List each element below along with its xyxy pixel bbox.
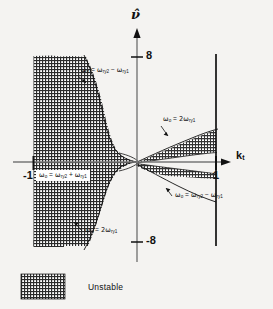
curve-label-lower-left-rhs1: 2ω [101, 226, 111, 234]
curve-label-lower-right: ωo = ωry2 − ωry1 [175, 192, 223, 200]
curve-label-upper-right-rhs1: 2ω [179, 115, 189, 123]
curve-label-lower-left-rhs1-sub: ry1 [111, 229, 117, 234]
curve-label-middle-left-eq: = [47, 171, 55, 178]
curve-label-lower-right-op: − [203, 191, 211, 198]
curve-label-lower-right-eq: = [183, 191, 191, 198]
curve-label-upper-right-eq: = [171, 115, 179, 122]
curve-label-lower-right-rhs2-sub: ry1 [216, 194, 222, 199]
curve-label-lower-left: ωo = 2ωry1 [85, 227, 117, 235]
region-left-unstable-foot [34, 240, 65, 247]
curve-label-middle-left-rhs2-sub: ry1 [80, 174, 86, 179]
curve-label-upper-left: ωo = ωry2 − ωry1 [81, 67, 129, 75]
curve-label-upper-right-rhs1-sub: ry1 [189, 118, 195, 123]
x-axis-label: kt [236, 150, 244, 161]
legend-label-unstable: Unstable [88, 283, 123, 292]
y-axis-label: ν̂ [131, 8, 140, 21]
curve-label-upper-left-eq: = [89, 66, 97, 73]
x-tick-label-left: -1 [23, 170, 33, 181]
y-tick-label-top: 8 [146, 50, 152, 61]
x-tick-label-right: 1 [213, 170, 219, 181]
curve-label-upper-right: ωo = 2ωry1 [163, 116, 195, 124]
x-axis-label-sub: t [242, 154, 244, 161]
y-tick-label-bottom: -8 [146, 235, 156, 246]
curve-label-middle-left: ωo = ωry2 + ωry1 [36, 170, 90, 181]
curve-label-upper-left-op: − [109, 66, 117, 73]
plot-canvas [0, 0, 273, 309]
figure-stability-diagram: ν̂ 8 -8 -1 1 kt ωo = ωry2 − ωry1 ωo = 2ω… [0, 0, 273, 309]
curve-label-middle-left-op: + [67, 171, 75, 178]
legend-swatch-unstable [21, 274, 65, 299]
curve-label-upper-left-rhs2-sub: ry1 [122, 69, 128, 74]
curve-label-lower-left-eq: = [93, 226, 101, 233]
